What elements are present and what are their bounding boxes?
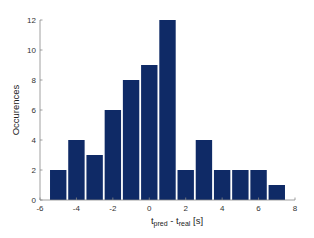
x-axis-label: tpred - treal [s] <box>151 215 203 228</box>
xlabel-sub-real: real <box>179 220 191 227</box>
y-tick-label: 6 <box>32 106 37 115</box>
bar <box>269 185 285 200</box>
bar <box>196 140 212 200</box>
x-tick-label: 8 <box>293 204 298 213</box>
x-tick-label: -4 <box>73 204 81 213</box>
bar <box>232 170 248 200</box>
y-tick-label: 2 <box>32 166 37 175</box>
bar <box>141 65 157 200</box>
bar <box>178 170 194 200</box>
bar <box>123 80 139 200</box>
xlabel-sub-pred: pred <box>154 220 168 228</box>
histogram-chart: 024681012 -6-4-202468 Occurences tpred -… <box>0 0 314 238</box>
y-tick-label: 8 <box>32 76 37 85</box>
y-tick-label: 4 <box>32 136 37 145</box>
bars <box>50 20 285 200</box>
bar <box>214 170 230 200</box>
y-axis-label: Occurences <box>10 84 21 135</box>
y-tick-label: 10 <box>27 46 36 55</box>
bar <box>159 20 175 200</box>
bar <box>86 155 102 200</box>
xlabel-unit: [s] <box>190 215 203 226</box>
x-tick-label: 2 <box>183 204 188 213</box>
bar <box>105 110 121 200</box>
bar <box>250 170 266 200</box>
x-tick-label: 0 <box>147 204 152 213</box>
x-tick-label: 4 <box>220 204 225 213</box>
xlabel-mid: - t <box>168 215 179 226</box>
x-tick-label: 6 <box>256 204 261 213</box>
y-tick-label: 12 <box>27 16 36 25</box>
x-tick-label: -2 <box>109 204 117 213</box>
x-tick-label: -6 <box>36 204 44 213</box>
bar <box>68 140 84 200</box>
bar <box>50 170 66 200</box>
